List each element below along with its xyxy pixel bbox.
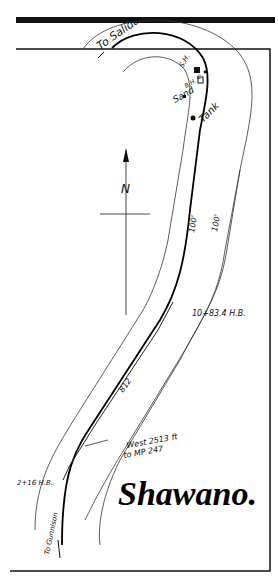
- top-border-bar: [16, 17, 275, 23]
- north-arrow-icon: [123, 148, 129, 162]
- station-title: Shawano.: [118, 475, 257, 512]
- to-gunnison-label: To Gunnison: [43, 512, 60, 556]
- milepost-pointer: [85, 440, 108, 446]
- siding-length-label: 812: [117, 376, 133, 394]
- sand-label: Sand: [171, 85, 196, 105]
- coal-marker: [204, 71, 207, 74]
- north-label: N: [121, 182, 130, 196]
- station-south-label: 2+16 H.B.: [17, 479, 53, 487]
- station-map: To Salida S.H. C B.H. Sand Tank N 100' 1…: [0, 0, 278, 578]
- row-width-left-label: 100': [187, 215, 199, 234]
- section-house-label: S.H.: [178, 53, 192, 69]
- row-width-right-label: 100': [210, 214, 222, 233]
- water-tank-marker: [191, 116, 196, 121]
- main-track-line: [62, 33, 208, 545]
- right-of-way-outer-line: [83, 20, 252, 545]
- right-of-way-inner-line: [35, 57, 190, 530]
- tank-label: Tank: [197, 99, 222, 124]
- to-gunnison-arrow-icon: [58, 540, 60, 558]
- station-north-label: 10+83.4 H.B.: [192, 309, 246, 318]
